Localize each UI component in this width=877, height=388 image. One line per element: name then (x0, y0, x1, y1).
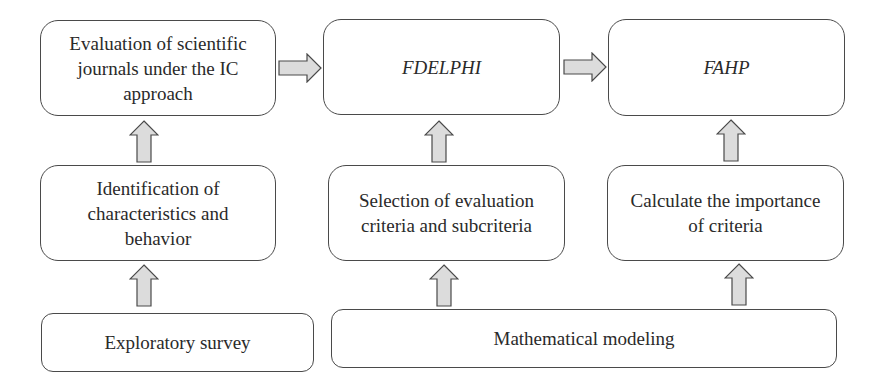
arrow-right-icon (563, 52, 607, 82)
node-mathematical-label: Mathematical modeling (494, 326, 675, 351)
arrow-up-icon (716, 119, 746, 162)
node-identification-line-3: behavior (88, 226, 229, 251)
node-exploratory-label: Exploratory survey (104, 330, 250, 355)
node-fdelphi: FDELPHI (323, 19, 560, 115)
arrow-up-icon (424, 120, 454, 163)
node-selection-line-1: Selection of evaluation (359, 188, 534, 213)
node-fahp: FAHP (608, 19, 845, 116)
node-identification-line-2: characteristics and (88, 201, 229, 226)
node-evaluation: Evaluation of scientific journals under … (40, 20, 276, 116)
node-fahp-label: FAHP (703, 55, 749, 80)
arrow-up-icon (429, 264, 459, 307)
node-calculate-line-2: of criteria (631, 213, 821, 238)
node-calculate-line-1: Calculate the importance (631, 188, 821, 213)
node-evaluation-line-2: journals under the IC (69, 56, 246, 81)
arrow-up-icon (129, 264, 159, 307)
node-mathematical: Mathematical modeling (331, 309, 837, 368)
arrow-up-icon (724, 263, 754, 306)
node-identification-line-1: Identification of (88, 176, 229, 201)
node-fdelphi-label: FDELPHI (402, 55, 481, 80)
arrow-up-icon (129, 120, 159, 163)
arrow-right-icon (278, 53, 322, 83)
node-exploratory: Exploratory survey (41, 313, 314, 372)
node-identification: Identification of characteristics and be… (40, 165, 276, 261)
node-evaluation-line-1: Evaluation of scientific (69, 31, 246, 56)
node-calculate: Calculate the importance of criteria (607, 165, 844, 261)
node-evaluation-line-3: approach (69, 81, 246, 106)
node-selection-line-2: criteria and subcriteria (359, 213, 534, 238)
node-selection: Selection of evaluation criteria and sub… (328, 165, 565, 261)
